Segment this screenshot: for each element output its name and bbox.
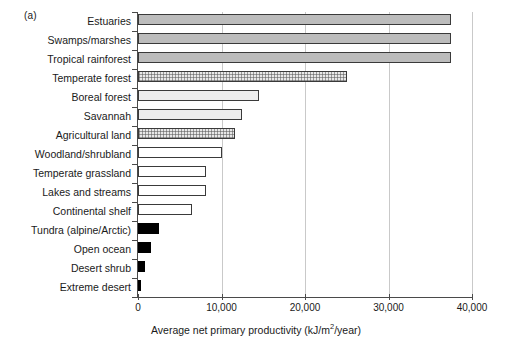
x-axis-title: Average net primary productivity (kJ/m2/… — [0, 322, 512, 336]
bar — [138, 223, 159, 234]
y-tick — [132, 221, 137, 222]
y-category-label: Desert shrub — [0, 262, 131, 274]
bar — [138, 109, 242, 120]
y-category-label: Temperate forest — [0, 72, 131, 84]
bar — [138, 242, 151, 253]
y-tick — [132, 31, 137, 32]
chart-figure: (a) 010,00020,00030,00040,000 EstuariesS… — [0, 0, 512, 354]
y-category-label: Tundra (alpine/Arctic) — [0, 224, 131, 236]
y-category-label: Tropical rainforest — [0, 53, 131, 65]
bar — [138, 90, 259, 101]
bar — [138, 52, 451, 63]
y-tick — [132, 164, 137, 165]
y-tick — [132, 69, 137, 70]
y-tick — [132, 107, 137, 108]
y-category-label: Swamps/marshes — [0, 34, 131, 46]
y-tick — [132, 259, 137, 260]
y-category-label: Continental shelf — [0, 205, 131, 217]
bar — [138, 166, 206, 177]
y-category-label: Temperate grassland — [0, 167, 131, 179]
y-tick — [132, 145, 137, 146]
bar — [138, 33, 451, 44]
y-category-label: Agricultural land — [0, 129, 131, 141]
bar — [138, 185, 206, 196]
y-tick — [132, 240, 137, 241]
y-category-label: Boreal forest — [0, 91, 131, 103]
bar — [138, 261, 145, 272]
y-category-label: Lakes and streams — [0, 186, 131, 198]
y-tick — [132, 50, 137, 51]
y-tick — [132, 183, 137, 184]
y-tick — [132, 126, 137, 127]
bar — [138, 280, 141, 291]
bar — [138, 14, 451, 25]
y-category-label: Estuaries — [0, 15, 131, 27]
x-axis-title-prefix: Average net primary productivity (kJ/m — [151, 324, 330, 336]
y-tick — [132, 278, 137, 279]
y-category-label: Open ocean — [0, 243, 131, 255]
y-category-label: Woodland/shrubland — [0, 148, 131, 160]
y-tick — [132, 202, 137, 203]
bar — [138, 147, 222, 158]
y-tick — [132, 12, 137, 13]
bar — [138, 128, 235, 139]
bar — [138, 204, 192, 215]
x-axis-title-suffix: /year) — [334, 324, 361, 336]
bar — [138, 71, 347, 82]
y-tick — [132, 88, 137, 89]
y-category-label: Savannah — [0, 110, 131, 122]
y-tick — [132, 297, 137, 298]
y-category-label: Extreme desert — [0, 281, 131, 293]
